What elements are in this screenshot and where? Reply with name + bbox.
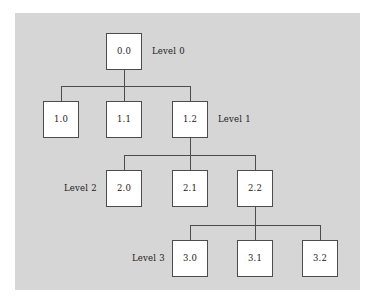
node-3-2-label: 3.2 [313, 254, 327, 263]
tree-diagram-figure: 0.0 Level 0 1.0 1.1 1.2 Level 1 Level 2 … [0, 0, 379, 304]
node-0-0-label: 0.0 [117, 47, 131, 56]
node-1-0-label: 1.0 [54, 115, 68, 124]
level-0-label: Level 0 [152, 47, 185, 56]
node-3-0[interactable]: 3.0 [172, 240, 208, 277]
node-2-1[interactable]: 2.1 [172, 170, 208, 207]
node-3-1[interactable]: 3.1 [237, 240, 273, 277]
node-1-0[interactable]: 1.0 [43, 101, 79, 138]
node-2-2-label: 2.2 [248, 184, 262, 193]
node-3-1-label: 3.1 [248, 254, 262, 263]
node-0-0[interactable]: 0.0 [106, 33, 142, 70]
level-3-label: Level 3 [132, 254, 165, 263]
node-1-2[interactable]: 1.2 [172, 101, 208, 138]
node-2-2[interactable]: 2.2 [237, 170, 273, 207]
node-2-0[interactable]: 2.0 [106, 170, 142, 207]
node-2-0-label: 2.0 [117, 184, 131, 193]
node-1-2-label: 1.2 [183, 115, 197, 124]
level-2-label: Level 2 [64, 184, 97, 193]
level-1-label: Level 1 [218, 115, 251, 124]
node-3-0-label: 3.0 [183, 254, 197, 263]
node-1-1-label: 1.1 [117, 115, 131, 124]
node-1-1[interactable]: 1.1 [106, 101, 142, 138]
node-2-1-label: 2.1 [183, 184, 197, 193]
node-3-2[interactable]: 3.2 [302, 240, 338, 277]
